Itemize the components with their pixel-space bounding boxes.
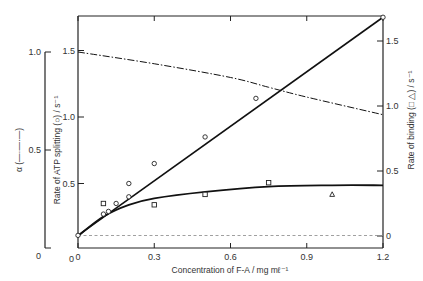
alpha-tick-label: 1.0: [28, 47, 41, 57]
left-tick-label: 0: [69, 254, 74, 264]
left-tick-label: 0.5: [62, 179, 75, 189]
circle-marker: [76, 233, 80, 237]
square-marker: [101, 201, 105, 205]
series-curves: [78, 17, 383, 236]
circle-marker: [114, 201, 118, 205]
square-marker: [203, 192, 207, 196]
x-tick-label: 0.6: [224, 252, 237, 262]
x-axis-ticks: 00.30.60.91.2: [75, 16, 389, 262]
right-axis-ticks: 00.51.01.5: [377, 36, 399, 241]
square-marker: [266, 181, 270, 185]
binding-fit-curve: [78, 185, 383, 236]
x-tick-label: 1.2: [377, 252, 390, 262]
alpha-axis: 00.51.0: [28, 47, 51, 261]
circle-marker: [254, 96, 258, 100]
circle-marker: [381, 15, 385, 19]
x-tick-label: 0.3: [148, 252, 161, 262]
right-tick-label: 0: [386, 231, 391, 241]
right-tick-label: 1.5: [386, 36, 399, 46]
right-tick-label: 0.5: [386, 166, 399, 176]
circle-marker: [127, 195, 131, 199]
left-tick-label: 1.0: [62, 112, 75, 122]
chart: 00.30.60.91.2 00.51.01.5 00.51.01.5 00.5…: [0, 0, 423, 281]
right-tick-label: 1.0: [386, 101, 399, 111]
right-axis-title: Rate of binding (□ △) / s⁻¹: [406, 70, 416, 169]
circle-marker: [152, 161, 156, 165]
square-marker: [152, 203, 156, 207]
alpha-tick-label: 0: [36, 251, 41, 261]
atp-fit-line: [78, 17, 383, 235]
x-axis-title: Concentration of F-A / mg mℓ⁻¹: [172, 265, 289, 275]
left-axis-ticks: 00.51.01.5: [62, 46, 84, 265]
circle-marker: [127, 181, 131, 185]
x-tick-label: 0.9: [300, 252, 313, 262]
x-tick-label: 0: [75, 252, 80, 262]
circle-marker: [101, 212, 105, 216]
alpha-tick-label: 0.5: [28, 145, 41, 155]
alpha-axis-title: α (—·—·—): [14, 128, 24, 172]
triangle-marker: [330, 192, 335, 197]
left-tick-label: 1.5: [62, 46, 75, 56]
circle-marker: [106, 209, 110, 213]
circle-marker: [203, 135, 207, 139]
left-axis-title: Rate of ATP splitting (○) / s⁻¹: [52, 96, 62, 205]
alpha-curve: [78, 52, 383, 115]
